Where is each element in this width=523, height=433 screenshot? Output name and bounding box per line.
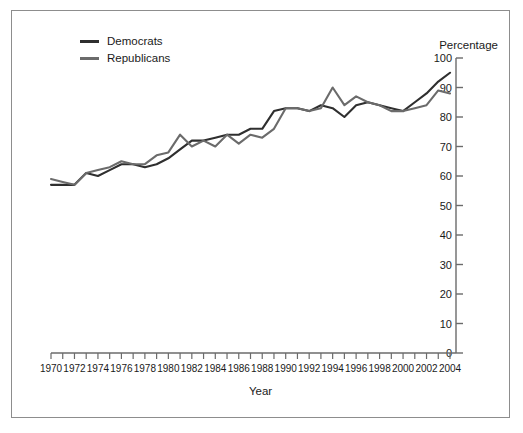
x-tick-label: 1980 xyxy=(157,363,180,374)
legend-item-republicans: Republicans xyxy=(80,50,170,67)
y-tick-label: 30 xyxy=(440,259,452,271)
y-axis: 0102030405060708090100 xyxy=(434,52,463,359)
y-tick-label: 10 xyxy=(440,318,452,330)
y-tick-label: 100 xyxy=(434,52,452,64)
y-tick-label: 40 xyxy=(440,229,452,241)
x-tick-label: 1990 xyxy=(275,363,298,374)
legend-item-democrats: Democrats xyxy=(80,33,170,50)
x-tick-label: 1972 xyxy=(63,363,86,374)
data-series-group xyxy=(51,73,450,185)
x-tick-label: 2000 xyxy=(392,363,415,374)
legend-swatch-democrats xyxy=(80,40,99,43)
y-tick-label: 70 xyxy=(440,141,452,153)
x-tick-label: 2002 xyxy=(415,363,438,374)
x-tick-label: 1984 xyxy=(204,363,227,374)
x-axis: 1970197219741976197819801982198419861988… xyxy=(40,353,462,374)
y-tick-label: 80 xyxy=(440,111,452,123)
x-tick-label: 1996 xyxy=(345,363,368,374)
legend-label-republicans: Republicans xyxy=(107,53,170,65)
chart-figure: Democrats Republicans Percentage Year 01… xyxy=(11,10,510,418)
chart-legend: Democrats Republicans xyxy=(80,33,170,67)
x-tick-label: 1978 xyxy=(134,363,157,374)
x-tick-label: 1974 xyxy=(87,363,110,374)
x-tick-label: 1994 xyxy=(322,363,345,374)
x-axis-title: Year xyxy=(12,385,509,397)
x-tick-label: 1982 xyxy=(181,363,204,374)
x-tick-label: 1976 xyxy=(110,363,133,374)
line-chart: 0102030405060708090100 19701972197419761… xyxy=(12,11,511,419)
x-tick-label: 1992 xyxy=(298,363,321,374)
y-tick-label: 60 xyxy=(440,170,452,182)
x-tick-label: 1970 xyxy=(40,363,63,374)
y-axis-title: Percentage xyxy=(439,39,498,51)
x-tick-label: 1988 xyxy=(251,363,274,374)
legend-swatch-republicans xyxy=(80,57,99,60)
y-tick-label: 50 xyxy=(440,200,452,212)
x-tick-label: 1986 xyxy=(228,363,251,374)
series-line-democrats xyxy=(51,73,450,185)
y-tick-label: 20 xyxy=(440,288,452,300)
legend-label-democrats: Democrats xyxy=(107,36,163,48)
x-tick-label: 1998 xyxy=(368,363,391,374)
x-tick-label: 2004 xyxy=(439,363,462,374)
